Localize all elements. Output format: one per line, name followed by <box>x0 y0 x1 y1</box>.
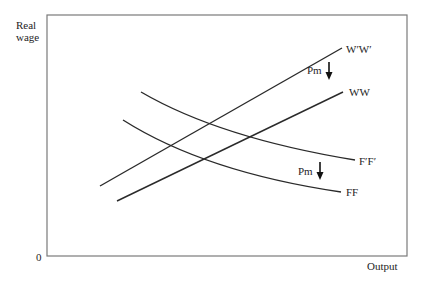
wpwp-label: W′W′ <box>346 43 372 55</box>
x-axis-label: Output <box>367 260 398 272</box>
ww-label: WW <box>349 86 370 98</box>
y-axis-label-line1: Real <box>16 19 39 31</box>
origin-label: 0 <box>36 251 42 263</box>
ww-curve <box>117 92 343 201</box>
pm-lower-label: Pm <box>298 165 313 177</box>
y-axis-label-line2: wage <box>16 31 39 43</box>
arrow-down-icon <box>326 62 333 80</box>
pm-upper-label: Pm <box>307 64 322 76</box>
fpfp-label: F′F′ <box>359 155 376 167</box>
ff-label: FF <box>346 186 358 198</box>
arrow-down-icon <box>317 162 324 180</box>
y-axis-label: Real wage <box>16 19 39 43</box>
